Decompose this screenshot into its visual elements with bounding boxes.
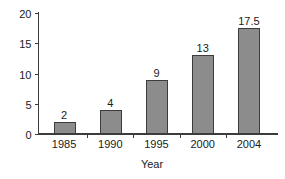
bar [55, 123, 76, 135]
y-tick-label: 5 [25, 99, 31, 111]
bar [101, 111, 122, 135]
bar-value-label: 9 [153, 67, 159, 79]
y-tick-label: 0 [25, 129, 31, 141]
bar [239, 29, 260, 135]
x-tick-label: 1995 [144, 138, 168, 150]
x-tick-label: 1990 [98, 138, 122, 150]
bar-value-label: 17.5 [238, 15, 259, 27]
x-axis-title: Year [141, 158, 164, 170]
y-tick-label: 20 [19, 8, 31, 20]
bar-value-label: 13 [197, 42, 209, 54]
chart-canvas: 05101520 19851990199520002004 2491317.5 … [0, 0, 285, 179]
y-tick-label: 15 [19, 38, 31, 50]
bar [147, 81, 168, 135]
x-tick-label: 1985 [52, 138, 76, 150]
bar-value-label: 2 [61, 109, 67, 121]
x-tick-label: 2004 [237, 138, 261, 150]
bar-value-label: 4 [107, 97, 113, 109]
x-tick-label: 2000 [190, 138, 214, 150]
bar-chart-figure: 05101520 19851990199520002004 2491317.5 … [0, 0, 285, 179]
y-tick-label: 10 [19, 69, 31, 81]
bar [193, 56, 214, 135]
